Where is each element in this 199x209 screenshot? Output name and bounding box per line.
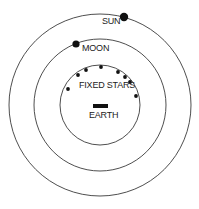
geocentric-diagram: SUN MOON FIXED STARS EARTH: [0, 0, 199, 209]
sun-label: SUN: [102, 16, 120, 26]
moon-icon: [72, 40, 79, 47]
star-icon: [76, 73, 80, 77]
star-icon: [99, 65, 103, 69]
moon-label: MOON: [82, 43, 109, 53]
earth-label: EARTH: [89, 110, 118, 120]
star-icon: [123, 75, 127, 79]
star-icon: [84, 68, 88, 72]
star-icon: [66, 87, 70, 91]
fixed-stars-label: FIXED STARS: [79, 80, 135, 90]
star-icon: [116, 70, 120, 74]
sun-icon: [120, 13, 128, 21]
star-icon: [134, 94, 138, 98]
earth-icon: [93, 104, 108, 108]
